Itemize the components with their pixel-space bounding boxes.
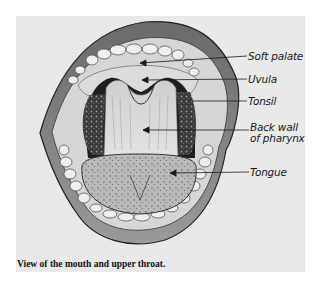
- label-soft-palate: Soft palate: [248, 51, 303, 62]
- label-uvula: Uvula: [248, 74, 277, 85]
- label-tonsil: Tonsil: [248, 96, 276, 107]
- label-tongue: Tongue: [250, 167, 287, 178]
- label-back-wall-line2: of pharynx: [250, 133, 305, 144]
- figure-caption: View of the mouth and upper throat.: [17, 259, 165, 269]
